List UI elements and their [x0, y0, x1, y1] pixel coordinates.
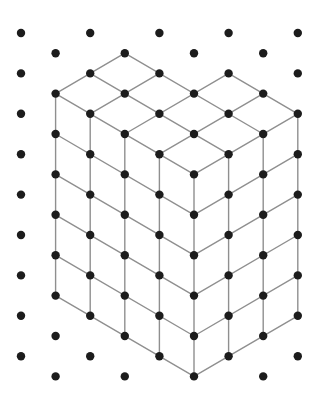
grid-dot	[121, 291, 129, 299]
grid-dot	[121, 130, 129, 138]
grid-dot	[294, 312, 302, 320]
grid-dot	[155, 29, 163, 37]
grid-dot	[294, 190, 302, 198]
grid-dot	[86, 190, 94, 198]
grid-dot	[224, 190, 232, 198]
grid-dot	[17, 190, 25, 198]
grid-dot	[294, 150, 302, 158]
grid-dot	[259, 251, 267, 259]
grid-dot	[51, 49, 59, 57]
grid-dot	[190, 211, 198, 219]
grid-dot	[259, 89, 267, 97]
grid-dot	[224, 29, 232, 37]
grid-dot	[121, 211, 129, 219]
grid-dot	[190, 89, 198, 97]
grid-dot	[155, 150, 163, 158]
grid-dot	[190, 372, 198, 380]
grid-dot	[86, 110, 94, 118]
grid-dot	[224, 352, 232, 360]
grid-dot	[155, 190, 163, 198]
grid-dot	[51, 291, 59, 299]
grid-dot	[190, 251, 198, 259]
grid-dot	[121, 372, 129, 380]
grid-dot	[17, 110, 25, 118]
grid-dot	[190, 130, 198, 138]
isometric-canvas	[0, 0, 323, 399]
grid-dot	[294, 110, 302, 118]
grid-dot	[86, 352, 94, 360]
grid-dot	[190, 170, 198, 178]
grid-dot	[17, 29, 25, 37]
grid-dot	[224, 110, 232, 118]
grid-dot	[51, 251, 59, 259]
grid-dot	[51, 211, 59, 219]
grid-dot	[190, 291, 198, 299]
grid-dot	[259, 291, 267, 299]
grid-dot	[86, 29, 94, 37]
grid-dot	[294, 29, 302, 37]
grid-dot	[121, 49, 129, 57]
grid-dot	[51, 130, 59, 138]
grid-dot	[155, 271, 163, 279]
grid-dot	[121, 251, 129, 259]
grid-dot	[86, 271, 94, 279]
grid-dot	[17, 312, 25, 320]
grid-dot	[294, 69, 302, 77]
grid-dot	[224, 312, 232, 320]
grid-dot	[259, 372, 267, 380]
grid-dot	[155, 352, 163, 360]
grid-dot	[121, 170, 129, 178]
grid-dot	[190, 332, 198, 340]
grid-dot	[224, 271, 232, 279]
grid-dot	[155, 312, 163, 320]
grid-dot	[51, 170, 59, 178]
grid-dot	[294, 352, 302, 360]
grid-dot	[17, 150, 25, 158]
grid-dot	[121, 332, 129, 340]
grid-dot	[17, 69, 25, 77]
grid-dot	[294, 271, 302, 279]
grid-dot	[294, 231, 302, 239]
grid-dot	[259, 332, 267, 340]
grid-dot	[224, 69, 232, 77]
canvas-background	[0, 0, 323, 399]
grid-dot	[190, 49, 198, 57]
grid-dot	[86, 69, 94, 77]
grid-dot	[155, 110, 163, 118]
grid-dot	[17, 231, 25, 239]
grid-dot	[259, 49, 267, 57]
grid-dot	[17, 352, 25, 360]
grid-dot	[51, 372, 59, 380]
grid-dot	[155, 69, 163, 77]
grid-dot	[224, 231, 232, 239]
grid-dot	[86, 231, 94, 239]
grid-dot	[121, 89, 129, 97]
grid-dot	[259, 170, 267, 178]
grid-dot	[224, 150, 232, 158]
grid-dot	[51, 89, 59, 97]
grid-dot	[17, 271, 25, 279]
grid-dot	[86, 150, 94, 158]
grid-dot	[259, 130, 267, 138]
grid-dot	[155, 231, 163, 239]
grid-dot	[259, 211, 267, 219]
grid-dot	[51, 332, 59, 340]
grid-dot	[86, 312, 94, 320]
